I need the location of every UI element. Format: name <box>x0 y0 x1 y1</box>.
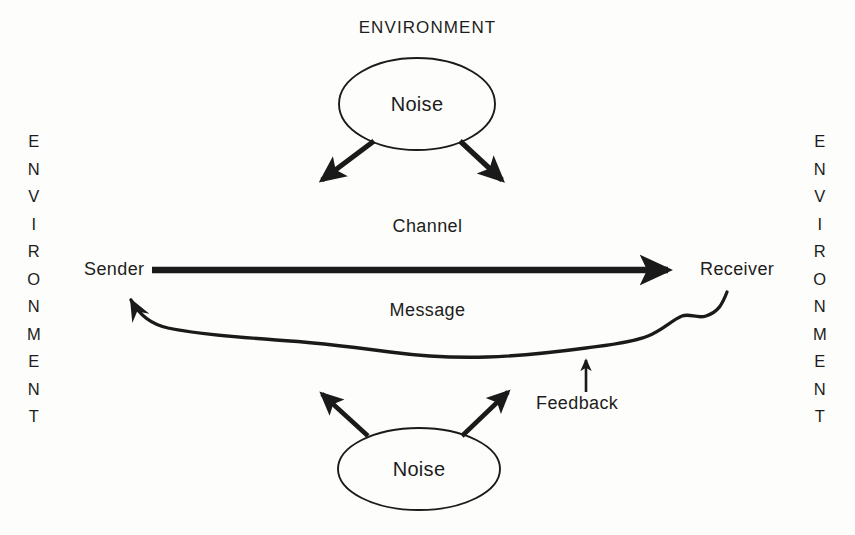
noise-top-arrow-right <box>460 141 502 180</box>
env-left-letter: R <box>14 238 54 266</box>
env-left-letter: M <box>14 321 54 349</box>
channel-label: Channel <box>0 216 855 237</box>
env-left-letter: V <box>14 183 54 211</box>
env-right-letter: V <box>800 183 840 211</box>
environment-label-left: E N V I R O N M E N T <box>14 128 54 431</box>
feedback-label: Feedback <box>536 393 618 414</box>
message-label: Message <box>0 300 855 321</box>
environment-label-right: E N V I R O N M E N T <box>800 128 840 431</box>
env-left-letter: O <box>14 266 54 294</box>
noise-bottom-label: Noise <box>334 458 504 481</box>
noise-bottom-arrow-right <box>462 392 508 436</box>
env-left-letter: T <box>14 403 54 431</box>
env-left-letter: E <box>14 128 54 156</box>
noise-top-arrow-left <box>322 141 374 180</box>
env-left-letter: E <box>14 348 54 376</box>
env-right-letter: E <box>800 348 840 376</box>
sender-label: Sender <box>84 259 144 280</box>
env-right-letter: E <box>800 128 840 156</box>
env-right-letter: N <box>800 376 840 404</box>
env-right-letter: R <box>800 238 840 266</box>
noise-bottom-arrow-left <box>322 394 368 436</box>
env-left-letter: N <box>14 376 54 404</box>
receiver-label: Receiver <box>700 259 774 280</box>
environment-title-top: ENVIRONMENT <box>0 18 855 38</box>
env-right-letter: T <box>800 403 840 431</box>
env-right-letter: N <box>800 156 840 184</box>
diagram-canvas: ENVIRONMENT E N V I R O N M E N T E N V … <box>0 0 855 535</box>
env-right-letter: O <box>800 266 840 294</box>
noise-top-label: Noise <box>332 93 502 116</box>
env-left-letter: N <box>14 156 54 184</box>
env-right-letter: M <box>800 321 840 349</box>
